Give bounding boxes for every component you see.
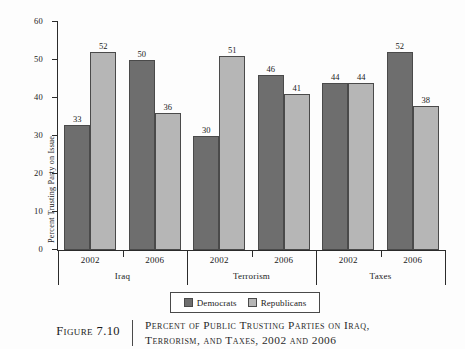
caption-title-line-1: Percent of Public Trusting Parties on Ir… [145,318,370,333]
x-axis-pair-tick [252,250,253,257]
legend-label: Democrats [197,298,237,308]
caption-figure-number: Figure 7.10 [0,318,132,339]
bar-value-label: 44 [331,72,340,82]
bar-iraq-2002-democrats: 33 [64,125,90,250]
y-axis-tick: 40 [52,97,58,98]
x-axis-group-separator [445,251,446,285]
y-axis-tick-label: 60 [34,16,43,26]
y-axis-tick: 30 [52,135,58,136]
x-axis-year-label: 2006 [145,255,164,265]
x-axis-group-separator [187,251,188,285]
y-axis-tick: 60 [52,21,58,22]
bar-terrorism-2006-democrats: 46 [258,75,284,250]
bar-value-label: 51 [228,45,237,55]
bar-terrorism-2002-democrats: 30 [193,136,219,250]
caption-title-line-2: Terrorism, and Taxes, 2002 and 2006 [145,333,370,348]
bar-value-label: 52 [396,41,405,51]
bar-taxes-2002-democrats: 44 [322,83,348,250]
x-axis-pair-tick [381,250,382,257]
bar-taxes-2002-republicans: 44 [348,83,374,250]
y-axis-tick: 20 [52,173,58,174]
bar-iraq-2006-republicans: 36 [155,113,181,250]
bar-taxes-2006-democrats: 52 [387,52,413,250]
x-axis-year-label: 2006 [274,255,293,265]
bar-value-label: 36 [164,102,173,112]
bar-iraq-2006-democrats: 50 [129,60,155,250]
figure-caption: Figure 7.10 Percent of Public Trusting P… [0,318,465,347]
x-axis-pair-tick [123,250,124,257]
x-axis-year-label: 2002 [339,255,358,265]
bar-iraq-2002-republicans: 52 [90,52,116,250]
bar-value-label: 33 [73,114,82,124]
legend-entry: Republicans [248,298,307,308]
x-axis-group-separator [316,251,317,285]
plot-area: Percent Trusting Party on Issue 01020304… [58,22,445,250]
bar-value-label: 50 [138,49,147,59]
bar-value-label: 30 [202,125,211,135]
x-axis-group-label: Iraq [115,271,130,281]
legend-label: Republicans [261,298,307,308]
bar-value-label: 52 [99,41,108,51]
y-axis-tick-label: 40 [34,92,43,102]
bar-value-label: 46 [267,64,276,74]
x-axis-year-label: 2006 [403,255,422,265]
x-axis-year-label: 2002 [210,255,229,265]
y-axis-tick-label: 20 [34,168,43,178]
figure-container: Percent Trusting Party on Issue 01020304… [0,0,465,349]
x-axis-group-separator [58,251,59,285]
bar-taxes-2006-republicans: 38 [413,106,439,250]
legend-swatch-republicans [248,298,257,307]
y-axis-title: Percent Trusting Party on Issue [47,136,56,243]
y-axis-tick-label: 0 [39,244,43,254]
y-axis-tick: 50 [52,59,58,60]
y-axis-tick-label: 50 [34,54,43,64]
legend-swatch-democrats [184,298,193,307]
legend-entry: Democrats [184,298,237,308]
bar-value-label: 38 [422,95,431,105]
bar-value-label: 44 [357,72,366,82]
x-axis-year-label: 2002 [81,255,100,265]
chart-legend: DemocratsRepublicans [170,292,320,313]
bar-terrorism-2006-republicans: 41 [284,94,310,250]
y-axis-tick: 10 [52,211,58,212]
y-axis-tick: 0 [52,249,58,250]
bar-terrorism-2002-republicans: 51 [219,56,245,250]
y-axis-tick-label: 10 [34,206,43,216]
caption-title: Percent of Public Trusting Parties on Ir… [133,318,370,347]
bar-value-label: 41 [293,83,302,93]
x-axis-group-label: Taxes [370,271,392,281]
x-axis-group-label: Terrorism [233,271,270,281]
y-axis-tick-label: 30 [34,130,43,140]
